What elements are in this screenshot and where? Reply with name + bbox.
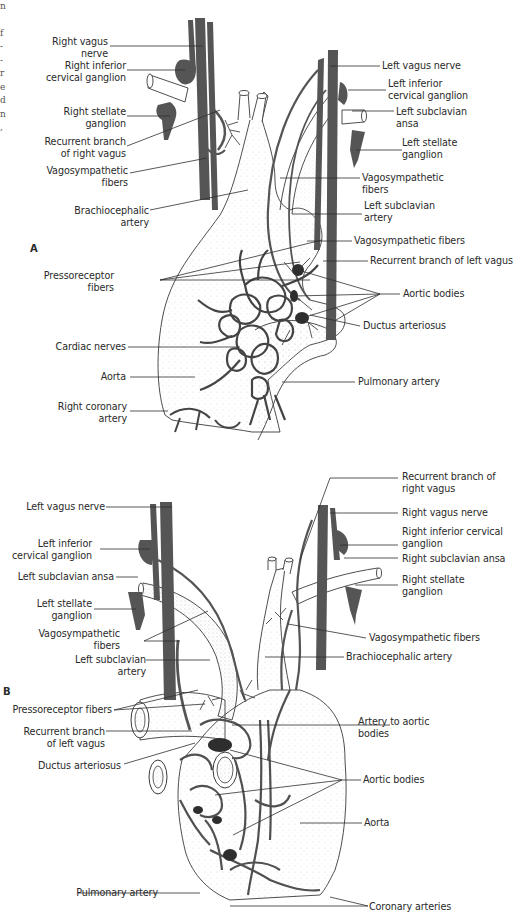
label-left-stellate-ganglion: Left stellate ganglion (402, 137, 457, 160)
label-line: Left inferior (388, 78, 468, 90)
label-vagosympathetic-fibers-center: Vagosympathetic fibers (354, 235, 465, 247)
label-line: ganglion (64, 118, 126, 130)
label-line: Right subclavian ansa (402, 553, 505, 565)
label-right-inferior-cervical-ganglion: Right inferior cervical ganglion (46, 60, 126, 83)
label-line: Artery to aortic (358, 716, 429, 728)
label-line: ansa (396, 118, 467, 130)
label-left-inferior-cervical-ganglion: Left inferior cervical ganglion (12, 538, 92, 561)
label-line: Pressoreceptor fibers (12, 704, 112, 716)
label-line: Right vagus nerve (402, 507, 488, 519)
label-line: Ductus arteriosus (363, 320, 446, 332)
label-line: ganglion (37, 610, 92, 622)
label-line: fibers (46, 177, 128, 189)
label-line: Right vagus (52, 36, 108, 48)
label-right-stellate-ganglion: Right stellate ganglion (64, 106, 126, 129)
aortic-body-shape (193, 806, 203, 814)
label-line: Left subclavian (396, 106, 467, 118)
label-line: Ductus arteriosus (38, 760, 121, 772)
label-right-vagus-nerve: Right vagus nerve (52, 36, 108, 59)
label-line: Aortic bodies (403, 288, 464, 300)
label-line: artery (58, 413, 127, 425)
label-line: ganglion (402, 538, 503, 550)
label-left-subclavian-artery: Left subclavian artery (75, 654, 146, 677)
label-aortic-bodies: Aortic bodies (363, 774, 424, 786)
label-line: Left subclavian ansa (18, 571, 114, 583)
label-left-stellate-ganglion: Left stellate ganglion (37, 598, 92, 621)
label-pressoreceptor-fibers: Pressoreceptor fibers (44, 270, 114, 293)
label-line: Left subclavian (364, 200, 435, 212)
label-line: Cardiac nerves (56, 341, 126, 353)
label-line: right vagus (402, 483, 496, 495)
label-line: Left subclavian (75, 654, 146, 666)
label-line: Aorta (101, 371, 126, 383)
label-line: artery (364, 212, 435, 224)
label-coronary-arteries: Coronary arteries (369, 901, 451, 913)
label-left-subclavian-ansa: Left subclavian ansa (396, 106, 467, 129)
label-line: fibers (44, 282, 114, 294)
label-artery-to-aortic-bodies: Artery to aortic bodies (358, 716, 429, 739)
label-right-vagus-nerve: Right vagus nerve (402, 507, 488, 519)
label-vagosympathetic-fibers-right: Vagosympathetic fibers (369, 632, 480, 644)
label-line: bodies (358, 728, 429, 740)
label-recurrent-branch-right-vagus: Recurrent branch of right vagus (44, 136, 126, 159)
label-line: Left vagus nerve (26, 501, 105, 513)
label-left-vagus-nerve: Left vagus nerve (26, 501, 105, 513)
label-line: of right vagus (44, 148, 126, 160)
label-left-vagus-nerve: Left vagus nerve (382, 60, 461, 72)
label-vagosympathetic-fibers-right: Vagosympathetic fibers (46, 165, 128, 188)
label-line: Right inferior cervical (402, 526, 503, 538)
label-pulmonary-artery: Pulmonary artery (76, 887, 158, 899)
label-pulmonary-artery: Pulmonary artery (358, 376, 440, 388)
label-line: ganglion (402, 149, 457, 161)
label-ductus-arteriosus: Ductus arteriosus (363, 320, 446, 332)
label-line: Right inferior (46, 60, 126, 72)
label-line: Brachiocephalic (74, 205, 149, 217)
label-line: Left stellate (37, 598, 92, 610)
label-line: ganglion (402, 586, 464, 598)
aortic-body-shape (208, 738, 232, 752)
label-right-inferior-cervical-ganglion: Right inferior cervical ganglion (402, 526, 503, 549)
label-cardiac-nerves: Cardiac nerves (56, 341, 126, 353)
label-recurrent-branch-left-vagus: Recurrent branch of left vagus (23, 726, 105, 749)
label-line: Pulmonary artery (358, 376, 440, 388)
label-line: fibers (362, 184, 444, 196)
panel-b-drawing (78, 478, 398, 906)
label-line: Recurrent branch of (402, 471, 496, 483)
label-vagosympathetic-fibers-left: Vagosympathetic fibers (362, 172, 444, 195)
label-line: cervical ganglion (12, 550, 92, 562)
label-line: Vagosympathetic (46, 165, 128, 177)
label-pressoreceptor-fibers: Pressoreceptor fibers (12, 704, 112, 716)
label-line: cervical ganglion (388, 90, 468, 102)
label-recurrent-branch-right-vagus: Recurrent branch of right vagus (402, 471, 496, 494)
label-line: Vagosympathetic (362, 172, 444, 184)
label-line: Right stellate (402, 574, 464, 586)
label-right-coronary-artery: Right coronary artery (58, 401, 127, 424)
label-line: Pulmonary artery (76, 887, 158, 899)
label-brachiocephalic-artery: Brachiocephalic artery (346, 651, 452, 663)
label-line: Recurrent branch (44, 136, 126, 148)
label-line: nerve (52, 48, 108, 60)
label-aortic-bodies: Aortic bodies (403, 288, 464, 300)
label-line: Brachiocephalic artery (346, 651, 452, 663)
label-brachiocephalic-artery: Brachiocephalic artery (74, 205, 149, 228)
label-line: of left vagus (23, 738, 105, 750)
label-line: Right coronary (58, 401, 127, 413)
label-right-stellate-ganglion: Right stellate ganglion (402, 574, 464, 597)
label-line: Aortic bodies (363, 774, 424, 786)
label-left-subclavian-artery: Left subclavian artery (364, 200, 435, 223)
label-line: Vagosympathetic fibers (354, 235, 465, 247)
aortic-body-shape (223, 849, 237, 861)
label-line: fibers (38, 640, 120, 652)
label-ductus-arteriosus: Ductus arteriosus (38, 760, 121, 772)
label-aorta: Aorta (364, 817, 389, 829)
panel-b-letter: B (3, 686, 11, 697)
label-left-inferior-cervical-ganglion: Left inferior cervical ganglion (388, 78, 468, 101)
label-line: Vagosympathetic (38, 628, 120, 640)
panel-a-letter: A (30, 243, 38, 254)
label-left-subclavian-ansa: Left subclavian ansa (18, 571, 114, 583)
label-line: artery (75, 666, 146, 678)
label-aorta: Aorta (101, 371, 126, 383)
label-line: Aorta (364, 817, 389, 829)
label-line: Left inferior (12, 538, 92, 550)
label-line: Recurrent branch (23, 726, 105, 738)
